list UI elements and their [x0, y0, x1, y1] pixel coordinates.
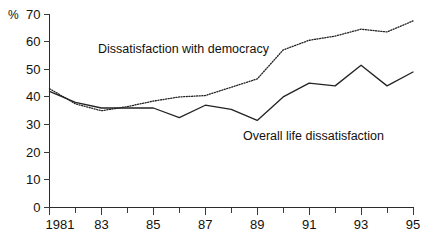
x-tick-label: 93	[354, 217, 368, 232]
x-axis-tick-labels: 198183858789919395	[46, 217, 421, 232]
y-tick-label: 0	[33, 200, 40, 215]
x-tick-label: 85	[146, 217, 160, 232]
y-axis-ticks	[44, 14, 50, 208]
x-tick-label: 87	[198, 217, 212, 232]
y-tick-label: 70	[26, 7, 40, 22]
annotation-democracy-label: Dissatisfaction with democracy	[98, 42, 270, 56]
series-line-overall-life-dissatisfaction	[50, 65, 414, 120]
annotation-life-dissatisfaction-label: Overall life dissatisfaction	[243, 129, 384, 143]
y-tick-label: 20	[26, 145, 40, 160]
line-chart: 010203040506070 198183858789919395 % Dis…	[0, 0, 426, 239]
chart-container: 010203040506070 198183858789919395 % Dis…	[0, 0, 426, 239]
y-tick-label: 30	[26, 117, 40, 132]
y-tick-label: 40	[26, 89, 40, 104]
x-tick-label: 91	[302, 217, 316, 232]
x-tick-label: 83	[94, 217, 108, 232]
x-tick-label: 89	[250, 217, 264, 232]
percent-axis-unit-label: %	[8, 8, 19, 22]
y-tick-label: 60	[26, 34, 40, 49]
y-tick-label: 10	[26, 172, 40, 187]
x-tick-label: 95	[406, 217, 420, 232]
series-line-dissatisfaction-with-democracy	[50, 21, 414, 111]
y-axis-tick-labels: 010203040506070	[26, 7, 40, 216]
x-axis-ticks	[50, 208, 414, 215]
y-tick-label: 50	[26, 62, 40, 77]
x-tick-label: 1981	[46, 217, 75, 232]
